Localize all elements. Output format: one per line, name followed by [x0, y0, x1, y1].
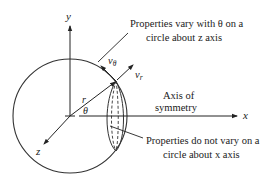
axis-annotation-line2: symmetry — [155, 102, 198, 113]
top-leader-line — [98, 33, 128, 62]
z-axis-label: z — [35, 145, 41, 157]
v-theta-arrow — [101, 66, 116, 81]
radius-line — [70, 82, 115, 116]
bottom-leader-line — [110, 126, 143, 138]
bottom-annotation-line1: Properties do not vary on a — [146, 135, 260, 146]
v-theta-label: vθ — [108, 55, 117, 68]
radius-label: r — [82, 94, 86, 105]
v-r-arrow — [117, 65, 133, 80]
y-axis-label: y — [65, 10, 71, 22]
bottom-annotation-line2: circle about x axis — [163, 149, 240, 160]
x-axis-label: x — [242, 109, 248, 121]
top-annotation-line1: Properties vary with θ on a — [130, 18, 244, 29]
axisymmetric-sphere-diagram: y z x r θ vθ vr Properties vary with θ o… — [0, 0, 268, 183]
z-axis — [44, 116, 70, 144]
top-annotation-line2: circle about z axis — [146, 32, 222, 43]
v-r-label: vr — [135, 69, 143, 82]
axis-annotation-line1: Axis of — [163, 90, 195, 101]
theta-label: θ — [83, 105, 88, 116]
